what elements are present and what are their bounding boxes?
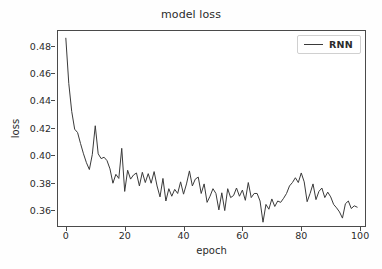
chart-figure: model loss loss 0.360.380.400.420.440.46…: [0, 0, 382, 269]
legend-label-rnn: RNN: [329, 39, 353, 50]
x-tick-label: 100: [351, 230, 369, 241]
plot-area: [57, 30, 366, 227]
chart-title: model loss: [0, 8, 382, 21]
x-axis-label: epoch: [57, 245, 366, 256]
series-line-rnn: [57, 30, 366, 227]
x-tick-label: 20: [119, 230, 131, 241]
y-tick-mark: [51, 46, 55, 47]
y-tick-mark: [51, 183, 55, 184]
y-tick-mark: [51, 100, 55, 101]
x-tick-label: 0: [63, 230, 69, 241]
y-tick-mark: [51, 128, 55, 129]
y-tick-mark: [51, 155, 55, 156]
x-axis-tick-labels: 020406080100: [57, 230, 366, 244]
y-tick-mark: [51, 210, 55, 211]
legend-line-swatch: [304, 44, 323, 45]
x-tick-label: 80: [295, 230, 307, 241]
x-tick-label: 40: [177, 230, 189, 241]
x-tick-label: 60: [236, 230, 248, 241]
y-axis-tick-marks: [0, 30, 57, 227]
chart-legend: RNN: [297, 35, 361, 54]
y-tick-mark: [51, 73, 55, 74]
